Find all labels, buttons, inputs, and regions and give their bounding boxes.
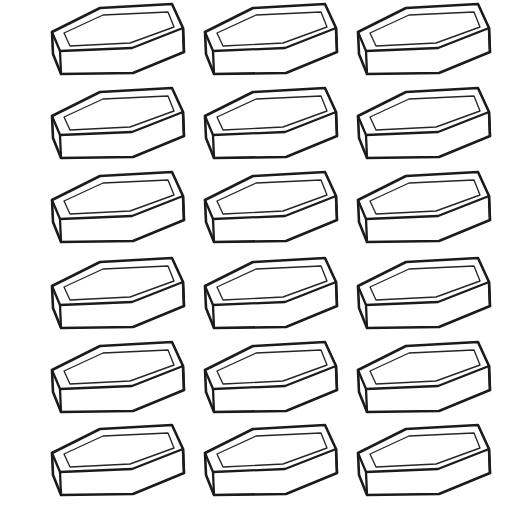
brick-1-2 xyxy=(197,2,345,90)
brick-right-corner-edge xyxy=(336,282,337,306)
brick-2-2 xyxy=(197,86,345,174)
brick-right-corner-edge xyxy=(489,282,490,306)
brick-drawing xyxy=(197,170,345,258)
brick-drawing xyxy=(44,86,192,174)
brick-right-corner-edge xyxy=(183,28,184,52)
brick-grid xyxy=(0,0,515,527)
brick-right-corner-edge xyxy=(336,28,337,52)
brick-3-2 xyxy=(197,170,345,258)
brick-5-3 xyxy=(350,340,498,428)
brick-drawing xyxy=(350,423,498,511)
brick-drawing xyxy=(197,2,345,90)
brick-right-corner-edge xyxy=(489,28,490,52)
brick-5-1 xyxy=(44,340,192,428)
brick-right-corner-edge xyxy=(489,112,490,136)
brick-drawing xyxy=(197,340,345,428)
brick-4-2 xyxy=(197,256,345,344)
brick-left-corner-edge xyxy=(366,389,367,412)
illustration-canvas xyxy=(0,0,515,527)
brick-left-corner-edge xyxy=(60,305,61,328)
brick-right-corner-edge xyxy=(183,196,184,220)
brick-drawing xyxy=(44,423,192,511)
brick-4-1 xyxy=(44,256,192,344)
brick-right-corner-edge xyxy=(336,449,337,473)
brick-left-corner-edge xyxy=(213,389,214,412)
brick-drawing xyxy=(44,340,192,428)
brick-1-1 xyxy=(44,2,192,90)
brick-drawing xyxy=(350,340,498,428)
brick-left-corner-edge xyxy=(213,472,214,495)
brick-left-corner-edge xyxy=(213,135,214,158)
brick-right-corner-edge xyxy=(183,282,184,306)
brick-left-corner-edge xyxy=(366,305,367,328)
brick-left-corner-edge xyxy=(366,51,367,74)
brick-left-corner-edge xyxy=(60,389,61,412)
brick-right-corner-edge xyxy=(183,112,184,136)
brick-left-corner-edge xyxy=(213,219,214,242)
brick-left-corner-edge xyxy=(60,219,61,242)
brick-right-corner-edge xyxy=(489,196,490,220)
brick-6-1 xyxy=(44,423,192,511)
brick-right-corner-edge xyxy=(336,366,337,390)
brick-1-3 xyxy=(350,2,498,90)
brick-left-corner-edge xyxy=(213,51,214,74)
brick-drawing xyxy=(350,2,498,90)
brick-2-1 xyxy=(44,86,192,174)
brick-left-corner-edge xyxy=(60,51,61,74)
brick-left-corner-edge xyxy=(213,305,214,328)
brick-3-1 xyxy=(44,170,192,258)
brick-left-corner-edge xyxy=(366,472,367,495)
brick-drawing xyxy=(197,423,345,511)
brick-left-corner-edge xyxy=(60,472,61,495)
brick-right-corner-edge xyxy=(183,449,184,473)
brick-6-3 xyxy=(350,423,498,511)
brick-drawing xyxy=(197,86,345,174)
brick-right-corner-edge xyxy=(336,112,337,136)
brick-left-corner-edge xyxy=(366,219,367,242)
brick-drawing xyxy=(44,256,192,344)
brick-drawing xyxy=(197,256,345,344)
brick-right-corner-edge xyxy=(489,366,490,390)
brick-drawing xyxy=(350,256,498,344)
brick-left-corner-edge xyxy=(60,135,61,158)
brick-drawing xyxy=(44,170,192,258)
brick-left-corner-edge xyxy=(366,135,367,158)
brick-right-corner-edge xyxy=(336,196,337,220)
brick-4-3 xyxy=(350,256,498,344)
brick-6-2 xyxy=(197,423,345,511)
brick-right-corner-edge xyxy=(183,366,184,390)
brick-3-3 xyxy=(350,170,498,258)
brick-drawing xyxy=(350,170,498,258)
brick-drawing xyxy=(44,2,192,90)
brick-5-2 xyxy=(197,340,345,428)
brick-right-corner-edge xyxy=(489,449,490,473)
brick-2-3 xyxy=(350,86,498,174)
brick-drawing xyxy=(350,86,498,174)
